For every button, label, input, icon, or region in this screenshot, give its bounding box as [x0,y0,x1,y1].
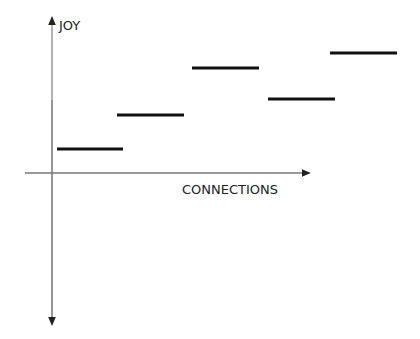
x-axis-label: CONNECTIONS [182,182,278,197]
y-axis-label: JOY [58,18,80,33]
data-segments [57,53,397,149]
chart-canvas: JOY CONNECTIONS [0,0,420,339]
